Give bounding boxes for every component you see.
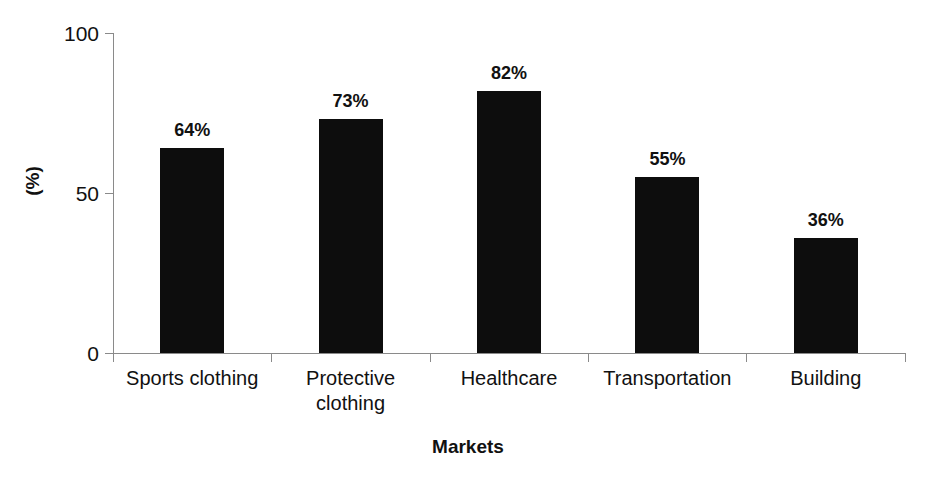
bar-value-transportation: 55% — [607, 150, 727, 168]
x-axis-category-sports-clothing: Sports clothing — [113, 366, 271, 391]
x-axis-title: Markets — [0, 436, 936, 458]
x-axis-category-transportation: Transportation — [588, 366, 746, 391]
x-axis-tick-3 — [588, 353, 589, 362]
y-axis-title: (%) — [22, 166, 44, 196]
bar-value-sports-clothing: 64% — [132, 121, 252, 139]
bar-building[interactable] — [794, 238, 858, 353]
bar-value-building: 36% — [766, 211, 886, 229]
y-axis-tick-50 — [105, 193, 114, 194]
x-axis-tick-1 — [271, 353, 272, 362]
x-axis-tick-4 — [746, 353, 747, 362]
y-axis-label-0: 0 — [35, 343, 99, 364]
x-axis-tick-5 — [905, 353, 906, 362]
x-axis-line — [113, 353, 905, 354]
x-axis-tick-2 — [430, 353, 431, 362]
bar-value-healthcare: 82% — [449, 64, 569, 82]
bar-sports-clothing[interactable] — [160, 148, 224, 353]
bar-transportation[interactable] — [635, 177, 699, 353]
x-axis-category-healthcare: Healthcare — [430, 366, 588, 391]
bar-chart-figure: 100 50 0 64% 73% 82% 55% 36% Sports clot… — [0, 0, 936, 480]
x-axis-category-building: Building — [747, 366, 905, 391]
x-axis-category-protective-clothing: Protectiveclothing — [271, 366, 429, 416]
x-axis-tick-0 — [113, 353, 114, 362]
y-axis-tick-100 — [105, 33, 114, 34]
y-axis-label-50: 50 — [35, 183, 99, 204]
bar-protective-clothing[interactable] — [319, 119, 383, 353]
bar-healthcare[interactable] — [477, 91, 541, 353]
y-axis-label-100: 100 — [35, 23, 99, 44]
bar-value-protective-clothing: 73% — [291, 92, 411, 110]
